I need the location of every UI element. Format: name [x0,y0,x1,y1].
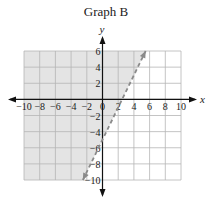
y-tick-label: −2 [90,111,101,122]
x-tick-label: −4 [66,101,77,112]
y-tick-label: 4 [96,62,101,73]
x-tick-label: 4 [131,101,136,112]
y-tick-label: 2 [96,78,101,89]
x-tick-label: −6 [50,101,61,112]
x-tick-label: −8 [34,101,45,112]
x-tick-label: 8 [163,101,168,112]
x-axis-label: x [199,93,205,105]
y-axis-label: y [99,23,105,35]
x-tick-label: −10 [16,101,32,112]
y-tick-label: 6 [96,46,101,57]
y-tick-label: −10 [85,175,101,186]
y-tick-label: −4 [90,127,101,138]
x-tick-label: 0 [100,101,105,112]
x-axis-right-arrow-icon [189,96,197,102]
y-axis-up-arrow-icon [100,36,106,44]
y-axis-down-arrow-icon [100,189,106,197]
x-axis-left-arrow-icon [8,96,16,102]
x-tick-label: 6 [147,101,152,112]
graph-plot: xy−10−8−6−4−20246810642−2−4−6−8−10 [0,0,212,205]
x-tick-label: 10 [176,101,186,112]
